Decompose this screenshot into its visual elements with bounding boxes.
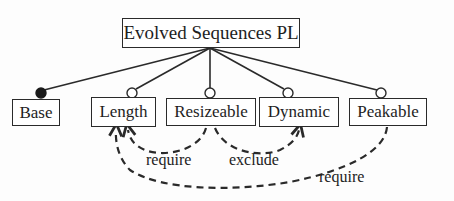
constraint-label-require: require <box>319 168 364 186</box>
feature-model-diagram: Evolved Sequences PL Base Length Resizea… <box>0 0 454 201</box>
root-feature-node: Evolved Sequences PL <box>122 18 300 48</box>
edge-root-length <box>136 48 210 89</box>
tree-edges <box>44 48 377 90</box>
feature-node-dynamic: Dynamic <box>259 97 339 127</box>
feature-label: Peakable <box>357 102 418 122</box>
feature-node-peakable: Peakable <box>349 98 427 126</box>
edge-root-peakable <box>210 48 377 90</box>
feature-label: Resizeable <box>174 102 248 122</box>
feature-label: Length <box>99 102 147 122</box>
constraint-label-require: require <box>146 151 191 169</box>
edge-root-dynamic <box>210 48 284 89</box>
edge-root-base <box>44 48 210 90</box>
constraint-resizeable-requires-length <box>128 128 206 153</box>
feature-node-resizeable: Resizeable <box>166 98 256 126</box>
optional-hollow-circle-icon <box>376 88 386 98</box>
root-feature-label: Evolved Sequences PL <box>123 22 298 44</box>
constraint-label-exclude: exclude <box>229 151 279 169</box>
optional-hollow-circle-icon <box>205 88 215 98</box>
feature-node-base: Base <box>12 99 60 126</box>
feature-label: Base <box>19 103 52 123</box>
feature-label: Dynamic <box>268 102 330 122</box>
constraint-resizeable-excludes-dynamic <box>215 128 299 153</box>
feature-node-length: Length <box>91 97 156 127</box>
mandatory-filled-circle-icon <box>36 88 46 98</box>
